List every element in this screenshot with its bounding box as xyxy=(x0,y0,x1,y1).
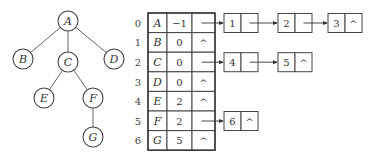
null-pointer: ^ xyxy=(199,77,207,88)
tree-node-F: F xyxy=(83,88,103,108)
cell-parent: 0 xyxy=(176,77,182,88)
row-index: 4 xyxy=(135,96,141,107)
tree-edge xyxy=(76,27,107,52)
row-index: 6 xyxy=(135,135,141,146)
null-pointer: ^ xyxy=(299,57,307,68)
cell-data: D xyxy=(152,76,162,89)
list-node: 3^ xyxy=(328,14,362,33)
tree: ABCDEFG xyxy=(13,11,124,147)
null-pointer: ^ xyxy=(199,37,207,48)
tree-edge xyxy=(31,27,61,52)
cell-data: C xyxy=(153,56,162,69)
svg-text:A: A xyxy=(63,15,72,28)
null-pointer: ^ xyxy=(199,135,207,146)
list-node: 6^ xyxy=(224,112,258,131)
list-node: 2 xyxy=(278,14,327,33)
cell-data: B xyxy=(152,36,161,49)
svg-text:B: B xyxy=(18,53,27,66)
parent-child-table: 0A−11B0^2C03D0^4E2^5F26G5^ xyxy=(135,13,215,150)
tree-edge xyxy=(50,70,63,89)
child-index: 6 xyxy=(229,116,235,127)
tree-node-D: D xyxy=(104,49,124,69)
table-row: 1B0^ xyxy=(135,33,215,53)
svg-text:C: C xyxy=(64,56,73,69)
cell-data: E xyxy=(152,95,161,108)
row-index: 5 xyxy=(135,116,141,127)
child-linked-lists: 123^45^6^ xyxy=(202,14,363,131)
table-row: 3D0^ xyxy=(135,72,215,92)
tree-node-C: C xyxy=(58,52,78,72)
tree-node-B: B xyxy=(13,49,33,69)
cell-parent: 0 xyxy=(176,57,182,68)
cell-parent: 0 xyxy=(176,37,182,48)
cell-data: F xyxy=(153,115,162,128)
tree-parent-child-representation-diagram: ABCDEFG 0A−11B0^2C03D0^4E2^5F26G5^ 123^4… xyxy=(0,0,374,158)
row-index: 0 xyxy=(135,18,141,29)
cell-data: G xyxy=(153,134,162,147)
svg-text:E: E xyxy=(39,92,48,105)
cell-data: A xyxy=(153,17,162,30)
tree-edge xyxy=(74,70,88,90)
cell-parent: 2 xyxy=(176,116,182,127)
row-index: 3 xyxy=(135,77,141,88)
null-pointer: ^ xyxy=(349,18,357,29)
child-index: 3 xyxy=(333,18,339,29)
table-row: 6G5^ xyxy=(135,131,215,151)
tree-node-G: G xyxy=(83,127,103,147)
list-node: 5^ xyxy=(278,53,312,72)
table-row: 4E2^ xyxy=(135,91,215,111)
child-list-row-0: 123^ xyxy=(202,14,363,33)
null-pointer: ^ xyxy=(245,116,253,127)
null-pointer: ^ xyxy=(199,96,207,107)
cell-parent: 5 xyxy=(176,135,182,146)
child-index: 5 xyxy=(283,57,289,68)
row-index: 1 xyxy=(135,37,141,48)
list-node: 4 xyxy=(224,53,277,72)
child-index: 1 xyxy=(229,18,235,29)
svg-text:D: D xyxy=(109,53,119,66)
row-index: 2 xyxy=(135,57,141,68)
tree-node-A: A xyxy=(58,11,78,31)
child-index: 2 xyxy=(283,18,289,29)
child-index: 4 xyxy=(229,57,235,68)
cell-parent: −1 xyxy=(172,18,187,29)
svg-text:F: F xyxy=(88,92,97,105)
svg-text:G: G xyxy=(89,131,98,144)
list-node: 1 xyxy=(224,14,277,33)
child-list-row-2: 45^ xyxy=(202,53,313,72)
tree-node-E: E xyxy=(34,88,54,108)
cell-parent: 2 xyxy=(176,96,182,107)
